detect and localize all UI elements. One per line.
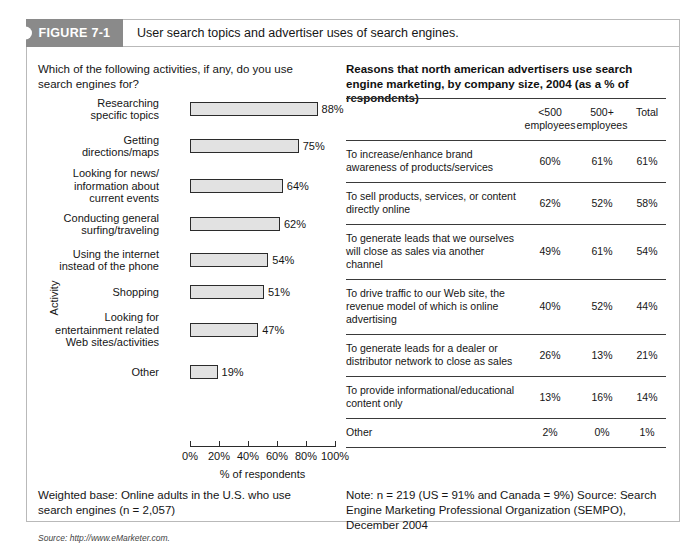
figure-caption-text: User search topics and advertiser uses o… — [137, 26, 459, 40]
table-cell-large-employees: 52% — [576, 280, 628, 335]
table-cell-small-employees: 13% — [524, 377, 576, 419]
chart-bar — [190, 217, 280, 231]
table-cell-large-employees: 16% — [576, 377, 628, 419]
table-cell-total: 58% — [628, 183, 666, 225]
table-cell-total: 44% — [628, 280, 666, 335]
column-header-reason — [346, 99, 524, 141]
chart-bar-value-label: 47% — [262, 323, 284, 337]
table-cell-total: 21% — [628, 335, 666, 377]
table-note-source: Note: n = 219 (US = 91% and Canada = 9%)… — [346, 488, 676, 533]
chart-bar — [190, 323, 258, 337]
chart-bar-row: Getting directions/maps75% — [27, 138, 342, 155]
chart-bar-track: 51% — [165, 284, 342, 301]
table-row: To sell products, services, or content d… — [346, 183, 666, 225]
chart-x-axis-tick-label: 0% — [182, 450, 198, 462]
chart-x-axis-tick-label: 40% — [237, 450, 259, 462]
chart-bar-row: Researching specific topics88% — [27, 101, 342, 118]
chart-bar — [190, 139, 299, 153]
table-cell-reason: To drive traffic to our Web site, the re… — [346, 280, 524, 335]
table-cell-large-employees: 61% — [576, 225, 628, 280]
chart-bar — [190, 253, 268, 267]
table-body: To increase/enhance brand awareness of p… — [346, 141, 666, 448]
table-cell-small-employees: 49% — [524, 225, 576, 280]
column-header-large-employees: 500+ employees — [576, 99, 628, 141]
table-cell-total: 1% — [628, 419, 666, 448]
table-cell-large-employees: 0% — [576, 419, 628, 448]
chart-x-axis-title: % of respondents — [190, 468, 335, 480]
chart-bar-row: Looking for news/ information about curr… — [27, 178, 342, 195]
chart-bar-track: 75% — [165, 138, 342, 155]
table-header-row: <500 employees 500+ employees Total — [346, 99, 666, 141]
chart-x-axis: 0%20%40%60%80%100% — [190, 446, 335, 447]
chart-bar-value-label: 64% — [287, 179, 309, 193]
chart-x-axis-tick — [277, 441, 278, 447]
chart-bar-track: 47% — [165, 322, 342, 339]
chart-bar-label: Using the internet instead of the phone — [27, 248, 165, 273]
chart-bar-label: Shopping — [27, 286, 165, 299]
table-row: Other2%0%1% — [346, 419, 666, 448]
chart-x-axis-tick-label: 20% — [208, 450, 230, 462]
chart-bar-track: 54% — [165, 252, 342, 269]
chart-question-text: Which of the following activities, if an… — [38, 62, 318, 92]
column-header-small-employees: <500 employees — [524, 99, 576, 141]
table-cell-reason: To sell products, services, or content d… — [346, 183, 524, 225]
chart-source-line: Source: http://www.eMarketer.com. — [38, 533, 170, 543]
table-cell-reason: To generate leads for a dealer or distri… — [346, 335, 524, 377]
chart-bar-row: Shopping51% — [27, 284, 342, 301]
chart-bar-row: Conducting general surfing/traveling62% — [27, 216, 342, 233]
chart-bar-value-label: 54% — [272, 253, 294, 267]
chart-bar-row: Other19% — [27, 364, 342, 381]
figure-caption-bar: User search topics and advertiser uses o… — [123, 19, 680, 47]
chart-x-axis-tick — [335, 441, 336, 447]
chart-bar-row: Using the internet instead of the phone5… — [27, 252, 342, 269]
table-header: <500 employees 500+ employees Total — [346, 99, 666, 141]
chart-x-axis-tick — [248, 441, 249, 447]
chart-x-axis-tick-label: 60% — [266, 450, 288, 462]
chart-bar-label: Getting directions/maps — [27, 134, 165, 159]
chart-bar-label: Looking for entertainment related Web si… — [27, 311, 165, 349]
chart-bar-track: 64% — [165, 178, 342, 195]
chart-bar-label: Researching specific topics — [27, 97, 165, 122]
table-cell-reason: To provide informational/educational con… — [346, 377, 524, 419]
chart-bar-track: 88% — [165, 101, 342, 118]
chart-bar-value-label: 51% — [268, 285, 290, 299]
chart-bar-row: Looking for entertainment related Web si… — [27, 322, 342, 339]
figure-header: FIGURE 7-1 User search topics and advert… — [26, 19, 680, 47]
figure-number-badge: FIGURE 7-1 — [26, 19, 123, 47]
chart-x-axis-tick-label: 80% — [295, 450, 317, 462]
chart-bar-track: 62% — [165, 216, 342, 233]
chart-bar-value-label: 19% — [222, 365, 244, 379]
chart-x-axis-tick — [306, 441, 307, 447]
table-cell-small-employees: 62% — [524, 183, 576, 225]
data-table-panel: Reasons that north american advertisers … — [342, 47, 681, 522]
chart-bar-value-label: 88% — [322, 102, 344, 116]
table-cell-total: 54% — [628, 225, 666, 280]
table-cell-large-employees: 13% — [576, 335, 628, 377]
column-header-total: Total — [628, 99, 666, 141]
advertiser-reasons-table: <500 employees 500+ employees Total To i… — [346, 98, 666, 448]
chart-x-axis-tick — [190, 441, 191, 447]
chart-bar — [190, 102, 318, 116]
column-header-small-line1: <500 — [538, 106, 562, 118]
chart-weighted-base-note: Weighted base: Online adults in the U.S.… — [38, 488, 328, 518]
bar-chart-panel: Which of the following activities, if an… — [27, 47, 342, 522]
table-cell-small-employees: 26% — [524, 335, 576, 377]
table-cell-reason: To generate leads that we ourselves will… — [346, 225, 524, 280]
table-cell-reason: To increase/enhance brand awareness of p… — [346, 141, 524, 183]
chart-bar — [190, 179, 283, 193]
column-header-large-line1: 500+ — [590, 106, 614, 118]
table-row: To increase/enhance brand awareness of p… — [346, 141, 666, 183]
table-cell-small-employees: 2% — [524, 419, 576, 448]
table-cell-large-employees: 52% — [576, 183, 628, 225]
table-row: To generate leads for a dealer or distri… — [346, 335, 666, 377]
figure-number-label: FIGURE 7-1 — [39, 26, 111, 40]
column-header-small-line2: employees — [525, 119, 576, 131]
chart-bar-track: 19% — [165, 364, 342, 381]
chart-bar-label: Other — [27, 366, 165, 379]
table-cell-reason: Other — [346, 419, 524, 448]
table-cell-small-employees: 40% — [524, 280, 576, 335]
chart-x-axis-tick — [219, 441, 220, 447]
table-cell-small-employees: 60% — [524, 141, 576, 183]
table-row: To provide informational/educational con… — [346, 377, 666, 419]
figure-body: Which of the following activities, if an… — [26, 47, 680, 522]
